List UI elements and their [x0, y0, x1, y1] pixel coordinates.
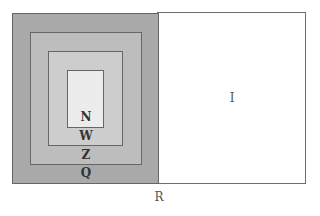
label-n: N: [81, 111, 92, 123]
label-r: R: [154, 191, 163, 203]
label-i: I: [230, 92, 235, 104]
label-q: Q: [81, 167, 91, 179]
label-z: Z: [82, 149, 91, 161]
label-w: W: [79, 130, 92, 142]
